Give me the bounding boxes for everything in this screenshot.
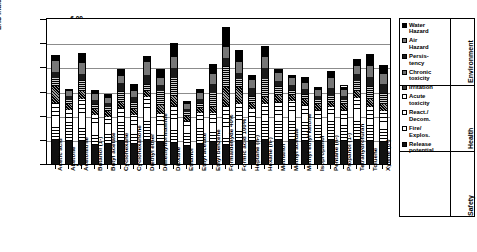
x-axis-label: Formaldehyde 40% (228, 115, 234, 171)
bar-segment (210, 84, 216, 94)
legend-item[interactable]: Acutetoxicity (400, 93, 450, 106)
bar-segment (236, 79, 242, 87)
bar-segment (144, 108, 150, 119)
bar-segment (52, 78, 58, 86)
bar-segment (354, 74, 360, 81)
legend-item[interactable]: Persis-tency (400, 53, 450, 66)
bar-segment (52, 116, 58, 127)
x-axis-label: Butyl acetate (110, 132, 116, 171)
bar-segment (66, 122, 72, 141)
legend-swatch-icon (402, 85, 407, 90)
legend-item-label: Persis-tency (409, 53, 429, 66)
bar-segment (118, 76, 124, 83)
bar-segment (380, 111, 386, 122)
x-axis-tick-mark (120, 165, 121, 169)
bar-segment (236, 62, 242, 73)
bar-segment (275, 73, 281, 81)
bar-segment (262, 97, 268, 104)
bar-segment (223, 87, 229, 106)
legend-item-label: React./Decom. (409, 109, 430, 122)
x-axis-label: Isopropanol (319, 136, 325, 171)
bar-segment (367, 55, 373, 66)
bar-segment (223, 47, 229, 58)
bar-segment (223, 58, 229, 66)
x-axis-tick-mark (330, 165, 331, 169)
x-axis-label: Ethanol (188, 148, 194, 171)
x-axis-label: Ethyl acetate (201, 133, 207, 171)
bar-segment (66, 110, 72, 117)
x-axis-label: Acetic acid (57, 138, 63, 171)
legend-item[interactable]: React./Decom. (400, 109, 450, 122)
bar-segment (275, 86, 281, 94)
bar-segment (197, 120, 203, 128)
bar-segment (171, 96, 177, 106)
legend-item-label: WaterHazard (409, 22, 429, 35)
legend-swatch-icon (402, 94, 407, 99)
bar-segment (380, 84, 386, 94)
stacked-bar (170, 43, 178, 164)
bar-segment (380, 104, 386, 111)
bar-segment (367, 107, 373, 119)
legend-group-divider (451, 85, 474, 86)
bar-segment (79, 54, 85, 64)
legend-group-label: Safety (467, 195, 474, 216)
bar-segment (157, 78, 163, 85)
x-axis-label: Cyclohexane (123, 133, 129, 171)
bar-segment (210, 74, 216, 84)
legend: WaterHazardAirHazardPersis-tencyChronict… (399, 18, 451, 217)
bar-segment (79, 63, 85, 74)
x-axis-label: Heptane (n-) (254, 135, 260, 171)
bar-segment (144, 75, 150, 83)
x-axis-label: Xylene (o-) (385, 139, 391, 171)
bar-segment (367, 124, 373, 141)
bar-segment (157, 70, 163, 78)
legend-swatch-icon (402, 110, 407, 115)
bar-segment (223, 28, 229, 47)
bar-segment (262, 47, 268, 58)
legend-swatch-icon (402, 54, 407, 59)
bar-segment (118, 91, 124, 102)
bar-segment (171, 119, 177, 129)
legend-item-label: Acutetoxicity (409, 93, 430, 106)
y-axis-title: EHS Indicator score [points] (0, 0, 2, 30)
legend-group-labels: EnvironmentHealthSafety (451, 18, 475, 217)
x-axis-label: Tetrahydrofuran (359, 124, 365, 171)
bar-segment (367, 77, 373, 87)
legend-item[interactable]: Fire/Explos. (400, 125, 450, 138)
bar-segment (354, 66, 360, 74)
legend-item[interactable]: WaterHazard (400, 22, 450, 35)
legend-swatch-icon (402, 23, 407, 28)
bar-segment (367, 99, 373, 106)
bar-segment (289, 101, 295, 112)
bar-segment (171, 78, 177, 96)
bar-segment (354, 91, 360, 98)
legend-item[interactable]: Chronictoxicity (400, 69, 450, 82)
bar-segment (210, 93, 216, 106)
bar-segment (118, 108, 124, 118)
bar-segment (275, 121, 281, 140)
legend-divider (400, 85, 450, 86)
bar-segment (210, 113, 216, 124)
legend-item[interactable]: AirHazard (400, 37, 450, 50)
bar-segment (197, 113, 203, 120)
bar-segment (92, 115, 98, 124)
bar-segment (380, 74, 386, 84)
x-axis-label: Methyl acetate (293, 128, 299, 171)
bar-segment (354, 81, 360, 91)
x-axis-label: Propanol (1-) (346, 133, 352, 171)
bar-segment (105, 124, 111, 132)
bar-segment (289, 111, 295, 119)
legend-divider (400, 151, 450, 152)
bar-segment (118, 83, 124, 91)
bar-segment (171, 106, 177, 119)
x-axis-label: Dioxane (175, 147, 181, 171)
x-axis-tick-mark (107, 165, 108, 169)
bar-segment (380, 66, 386, 74)
bar-segment (315, 110, 321, 118)
bar-segment (131, 115, 137, 125)
bar-segment (171, 128, 177, 143)
legend-swatch-icon (402, 126, 407, 131)
bar-segment (328, 88, 334, 96)
bar-segment (79, 80, 85, 91)
bar-segment (249, 109, 255, 117)
